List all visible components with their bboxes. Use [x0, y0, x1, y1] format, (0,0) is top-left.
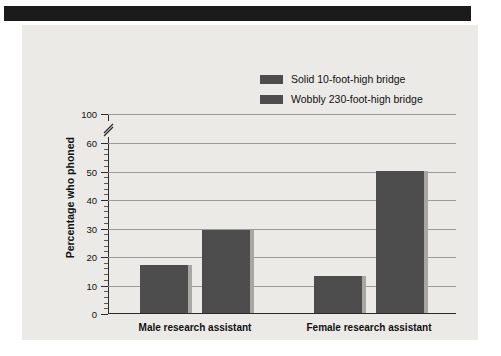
gridline: [108, 114, 456, 115]
y-axis-tick: [101, 229, 108, 230]
legend-item: Solid 10-foot-high bridge: [260, 71, 470, 87]
y-axis-minor-tick: [104, 194, 108, 195]
x-axis-group-label: Male research assistant: [139, 322, 252, 333]
gridline: [108, 143, 456, 144]
y-axis-tick-label: 100: [81, 109, 97, 120]
header-bar: [4, 6, 471, 21]
legend-label: Wobbly 230-foot-high bridge: [291, 93, 423, 105]
y-axis-minor-tick: [104, 160, 108, 161]
y-axis-minor-tick: [104, 246, 108, 247]
legend-swatch-icon: [260, 75, 283, 84]
y-axis-tick-label: 10: [86, 280, 97, 291]
y-axis-minor-tick: [104, 240, 108, 241]
plot-area: 0102030405060100: [108, 114, 456, 314]
y-axis-minor-tick: [104, 223, 108, 224]
y-axis-minor-tick: [104, 211, 108, 212]
y-axis-minor-tick: [104, 183, 108, 184]
y-axis-tick: [101, 114, 108, 115]
y-axis-minor-tick: [104, 149, 108, 150]
bar: [202, 230, 250, 313]
y-axis-tick-label: 0: [92, 309, 97, 320]
y-axis-minor-tick: [104, 251, 108, 252]
y-axis-minor-tick: [104, 263, 108, 264]
y-axis-tick-label: 40: [86, 195, 97, 206]
chart-legend: Solid 10-foot-high bridge Wobbly 230-foo…: [260, 71, 470, 111]
y-axis-break-icon: [102, 121, 116, 137]
chart-page: Solid 10-foot-high bridge Wobbly 230-foo…: [22, 25, 478, 340]
y-axis-tick: [101, 286, 108, 287]
y-axis-minor-tick: [104, 154, 108, 155]
figure-container: Solid 10-foot-high bridge Wobbly 230-foo…: [0, 0, 501, 356]
y-axis-minor-tick: [104, 268, 108, 269]
y-axis-tick-label: 30: [86, 223, 97, 234]
y-axis-tick: [101, 172, 108, 173]
y-axis-minor-tick: [104, 206, 108, 207]
y-axis-tick: [101, 200, 108, 201]
legend-label: Solid 10-foot-high bridge: [291, 73, 405, 85]
y-axis-tick: [101, 314, 108, 315]
y-axis-minor-tick: [104, 234, 108, 235]
y-axis-tick: [101, 257, 108, 258]
x-axis-group-label: Female research assistant: [306, 322, 431, 333]
y-axis-tick: [101, 143, 108, 144]
bar: [376, 171, 424, 314]
y-axis-line: [108, 114, 109, 314]
y-axis-minor-tick: [104, 166, 108, 167]
y-axis-minor-tick: [104, 189, 108, 190]
y-axis-minor-tick: [104, 308, 108, 309]
y-axis-title: Percentage who phoned: [64, 137, 76, 258]
y-axis-minor-tick: [104, 217, 108, 218]
y-axis-minor-tick: [104, 274, 108, 275]
y-axis-minor-tick: [104, 291, 108, 292]
y-axis-minor-tick: [104, 303, 108, 304]
bar: [140, 265, 188, 313]
bar: [314, 276, 362, 313]
legend-swatch-icon: [260, 95, 283, 104]
y-axis-minor-tick: [104, 177, 108, 178]
y-axis-minor-tick: [104, 280, 108, 281]
y-axis-minor-tick: [104, 297, 108, 298]
y-axis-tick-label: 60: [86, 138, 97, 149]
y-axis-tick-label: 20: [86, 252, 97, 263]
legend-item: Wobbly 230-foot-high bridge: [260, 91, 470, 107]
y-axis-tick-label: 50: [86, 166, 97, 177]
